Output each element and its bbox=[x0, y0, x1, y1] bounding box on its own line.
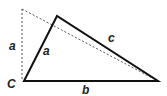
label-c: c bbox=[108, 31, 115, 45]
triangle-diagram: a a c b C bbox=[0, 0, 167, 96]
label-b: b bbox=[82, 83, 89, 96]
label-a-dashed: a bbox=[9, 39, 16, 53]
label-a-solid: a bbox=[43, 44, 50, 58]
label-vertex-C: C bbox=[7, 77, 16, 91]
